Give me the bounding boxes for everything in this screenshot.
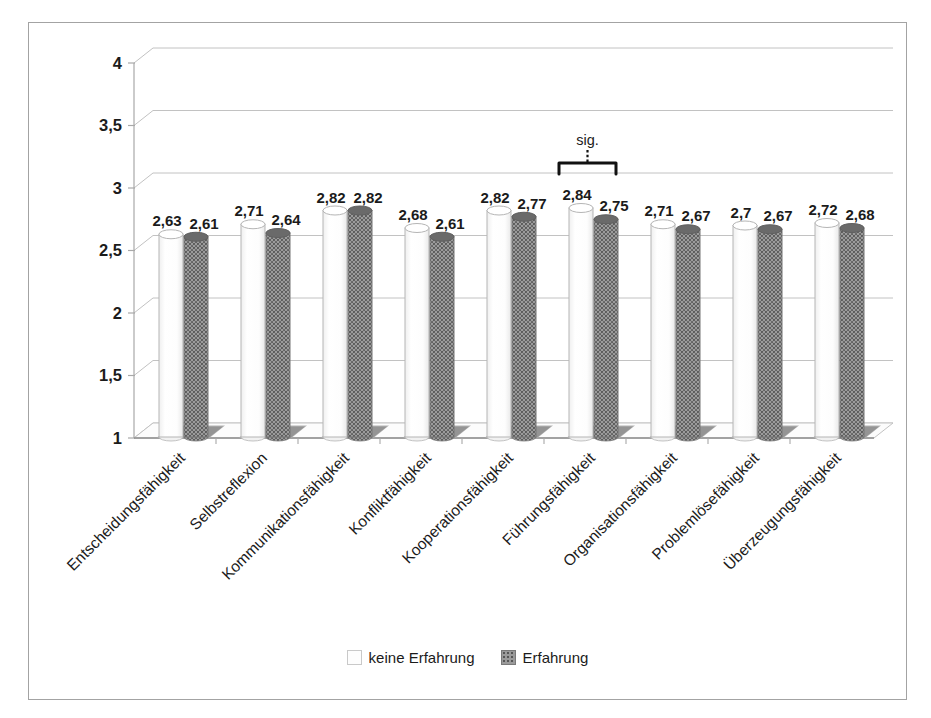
- category-label: Entscheidungsfähigkeit: [63, 449, 188, 574]
- bar-body: [512, 217, 536, 437]
- bar-erfahrung: [430, 232, 454, 441]
- bar-erfahrung: [266, 229, 290, 442]
- bar-bottom: [569, 437, 593, 441]
- data-label-erfahrung: 2,67: [763, 207, 792, 224]
- bar-bottom: [758, 437, 782, 441]
- data-label-keine-erfahrung: 2,72: [808, 201, 837, 218]
- legend-item-erfahrung: Erfahrung: [501, 649, 589, 666]
- bar-top-cap: [184, 232, 208, 241]
- y-axis-label: 1,5: [99, 366, 122, 384]
- data-label-keine-erfahrung: 2,7: [731, 204, 752, 221]
- chart-legend: keine Erfahrung Erfahrung: [29, 649, 906, 666]
- data-label-keine-erfahrung: 2,82: [316, 189, 345, 206]
- y-axis-label: 3: [113, 179, 122, 197]
- bar-body: [159, 234, 183, 437]
- bar-keine-erfahrung: [159, 230, 183, 441]
- sig-bracket: [559, 163, 616, 174]
- bar-bottom: [487, 437, 511, 441]
- bar-body: [815, 223, 839, 437]
- bar-bottom: [405, 437, 429, 441]
- legend-swatch-dark-icon: [501, 650, 516, 665]
- bar-body: [430, 237, 454, 437]
- y-axis-label: 2: [113, 304, 122, 322]
- bar-top-cap: [405, 224, 429, 233]
- bar-bottom: [430, 437, 454, 441]
- data-label-keine-erfahrung: 2,82: [480, 189, 509, 206]
- bar-bottom: [184, 437, 208, 441]
- bar-keine-erfahrung: [815, 219, 839, 442]
- bar-bottom: [815, 437, 839, 441]
- sig-annotation: sig.: [559, 132, 616, 174]
- bar-bottom: [348, 437, 372, 441]
- bars: [159, 204, 864, 442]
- bar-bottom: [512, 437, 536, 441]
- data-label-keine-erfahrung: 2,68: [398, 206, 427, 223]
- bar-top-cap: [241, 220, 265, 229]
- bar-bottom: [676, 437, 700, 441]
- bar-bottom: [733, 437, 757, 441]
- bar-top-cap: [487, 206, 511, 215]
- bar-bottom: [840, 437, 864, 441]
- data-label-erfahrung: 2,68: [845, 206, 874, 223]
- bar-top-cap: [430, 232, 454, 241]
- data-label-keine-erfahrung: 2,63: [152, 212, 181, 229]
- bar-body: [266, 233, 290, 437]
- sig-label: sig.: [576, 132, 599, 148]
- bar-top-cap: [815, 219, 839, 228]
- bar-body: [405, 228, 429, 437]
- category-label: Selbstreflexion: [186, 449, 270, 533]
- bar-erfahrung: [594, 215, 618, 441]
- gridline-side-connector: [134, 111, 153, 126]
- bar-keine-erfahrung: [323, 206, 347, 441]
- data-label-erfahrung: 2,77: [517, 195, 546, 212]
- bar-keine-erfahrung: [733, 221, 757, 441]
- category-label: Konfliktfähigkeit: [345, 449, 434, 538]
- data-label-erfahrung: 2,67: [681, 207, 710, 224]
- bar-erfahrung: [348, 206, 372, 441]
- bar-keine-erfahrung: [569, 204, 593, 442]
- y-axis-label: 3,5: [99, 116, 122, 134]
- bar-top-cap: [569, 204, 593, 213]
- bar-top-cap: [323, 206, 347, 215]
- legend-item-keine-erfahrung: keine Erfahrung: [347, 649, 475, 666]
- bar-body: [487, 211, 511, 438]
- legend-label: Erfahrung: [523, 649, 589, 666]
- bar-erfahrung: [184, 232, 208, 441]
- bar-top-cap: [733, 221, 757, 230]
- bar-keine-erfahrung: [405, 224, 429, 442]
- bar-body: [323, 211, 347, 438]
- bar-body: [348, 211, 372, 438]
- bar-body: [733, 226, 757, 438]
- bar-bottom: [241, 437, 265, 441]
- gridline-side-connector: [134, 173, 153, 188]
- data-label-erfahrung: 2,64: [271, 211, 301, 228]
- bar-body: [651, 224, 675, 437]
- bar-top-cap: [348, 206, 372, 215]
- bar-chart: 2,632,612,712,642,822,822,682,612,822,77…: [29, 23, 906, 699]
- bar-top-cap: [758, 225, 782, 234]
- data-label-erfahrung: 2,61: [189, 215, 218, 232]
- bar-body: [569, 208, 593, 437]
- bar-body: [594, 219, 618, 437]
- bar-body: [676, 229, 700, 437]
- bar-erfahrung: [676, 225, 700, 441]
- bar-erfahrung: [758, 225, 782, 441]
- gridline-side-connector: [134, 361, 153, 376]
- bar-bottom: [159, 437, 183, 441]
- gridline-side-connector: [134, 298, 153, 313]
- bar-top-cap: [651, 220, 675, 229]
- bar-top-cap: [594, 215, 618, 224]
- data-label-erfahrung: 2,61: [435, 215, 464, 232]
- legend-label: keine Erfahrung: [369, 649, 475, 666]
- chart-frame: 2,632,612,712,642,822,822,682,612,822,77…: [28, 22, 907, 700]
- bar-top-cap: [676, 225, 700, 234]
- bar-erfahrung: [512, 212, 536, 441]
- bar-bottom: [651, 437, 675, 441]
- category-labels: EntscheidungsfähigkeitSelbstreflexionKom…: [63, 449, 844, 583]
- data-label-erfahrung: 2,75: [599, 197, 628, 214]
- bar-bottom: [323, 437, 347, 441]
- bar-top-cap: [840, 224, 864, 233]
- gridline-side-connector: [134, 48, 153, 63]
- y-axis-label: 1: [113, 429, 122, 447]
- bar-body: [840, 228, 864, 437]
